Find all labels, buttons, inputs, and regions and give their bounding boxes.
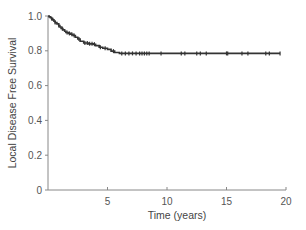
x-tick-label: 15 [221, 196, 233, 207]
survival-curve [48, 16, 280, 53]
y-tick-label: 0.2 [28, 150, 42, 161]
y-axis-title: Local Disease Free Survival [6, 38, 18, 169]
axes [45, 16, 286, 190]
axis-labels: 00.20.40.60.81.05101520Time (years)Local… [6, 11, 292, 222]
x-tick-label: 10 [161, 196, 173, 207]
x-axis-title: Time (years) [148, 209, 207, 221]
y-tick-label: 1.0 [28, 11, 42, 22]
censor-marks [52, 17, 280, 56]
y-tick-label: 0 [36, 185, 42, 196]
x-tick-label: 20 [280, 196, 292, 207]
x-tick-label: 5 [105, 196, 111, 207]
y-tick-label: 0.6 [28, 80, 42, 91]
step-line [48, 16, 280, 53]
km-chart: 00.20.40.60.81.05101520Time (years)Local… [0, 0, 306, 230]
y-tick-label: 0.4 [28, 115, 42, 126]
y-tick-label: 0.8 [28, 45, 42, 56]
